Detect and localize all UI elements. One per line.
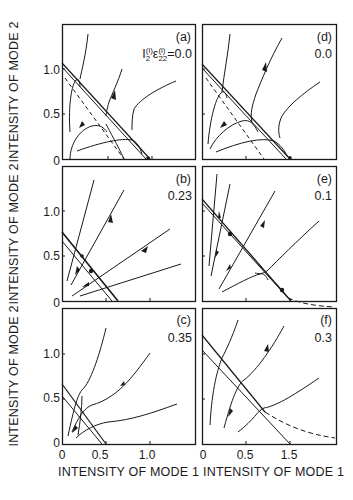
panel-e-label: (e) bbox=[317, 172, 332, 186]
figure: INTENSITY OF MODE 2 INTENSITY OF MODE 2 … bbox=[0, 0, 353, 500]
panel-c-value: 0.35 bbox=[168, 331, 192, 345]
panel-c-label: (c) bbox=[176, 313, 191, 327]
panel-f-label: (f) bbox=[320, 313, 332, 327]
panel-d-label: (d) bbox=[317, 30, 332, 44]
panel-b bbox=[62, 166, 196, 302]
panel-e bbox=[202, 166, 337, 302]
ytick-a-1: 1.0 bbox=[43, 63, 60, 77]
panel-a bbox=[62, 24, 196, 160]
xtick-c-05: 0.5 bbox=[92, 448, 109, 462]
panel-b-value: 0.23 bbox=[168, 189, 192, 203]
panel-b-label: (b) bbox=[176, 172, 191, 186]
panel-c bbox=[62, 308, 196, 445]
ytick-a-0: 0 bbox=[53, 154, 60, 168]
panel-e-value: 0.1 bbox=[315, 189, 332, 203]
xtick-f-15: 1.5 bbox=[281, 448, 298, 462]
ytick-b-0: 0 bbox=[53, 296, 60, 310]
ytick-b-1: 1.0 bbox=[43, 205, 60, 219]
panel-a-formula: I(i)2ε(i)22=0.0 bbox=[142, 47, 192, 63]
panel-d bbox=[202, 24, 337, 160]
panel-a-label: (a) bbox=[176, 30, 191, 44]
x-axis-title-left: INTENSITY OF MODE 1 bbox=[58, 465, 199, 479]
panel-f bbox=[202, 308, 337, 445]
xtick-c-0: 0 bbox=[59, 448, 66, 462]
panel-f-value: 0.3 bbox=[315, 331, 332, 345]
ytick-b-05: 0.5 bbox=[43, 249, 60, 263]
panel-d-value: 0.0 bbox=[315, 47, 332, 61]
x-axis-title-right: INTENSITY OF MODE 1 bbox=[203, 465, 344, 479]
xtick-f-0: 0 bbox=[200, 448, 207, 462]
xtick-f-05: 0.5 bbox=[237, 448, 254, 462]
ytick-c-05: 0.5 bbox=[43, 391, 60, 405]
ytick-c-1: 1.0 bbox=[43, 347, 60, 361]
ytick-a-05: 0.5 bbox=[43, 107, 60, 121]
xtick-c-1: 1.0 bbox=[139, 448, 156, 462]
